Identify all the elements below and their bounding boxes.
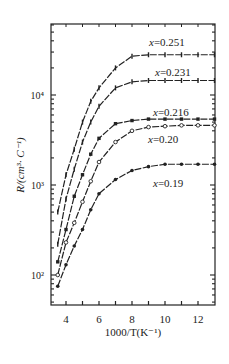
data-point-marker [64, 241, 68, 245]
data-point-marker [147, 165, 151, 169]
data-point-marker [56, 284, 60, 288]
data-point-marker [81, 228, 85, 232]
data-point-marker [64, 263, 68, 267]
y-axis-label: R/(cm³· C⁻¹) [14, 137, 27, 194]
data-point-marker [213, 124, 217, 128]
series-line [58, 80, 215, 244]
data-point-marker [114, 140, 118, 144]
data-point-marker [196, 124, 200, 128]
x-axis-label: 1000/T(K⁻¹) [105, 326, 162, 339]
data-point-marker [213, 117, 216, 120]
data-point-marker [56, 273, 60, 277]
data-point-marker [147, 117, 150, 120]
data-point-marker [114, 178, 118, 182]
data-point-marker [180, 162, 184, 166]
data-point-marker [130, 119, 133, 122]
series-label: x=0.216 [152, 106, 189, 118]
series-line [58, 164, 215, 286]
data-point-marker [73, 195, 76, 198]
data-series [56, 52, 216, 288]
x-tick-label: 8 [129, 313, 135, 325]
data-point-marker [89, 179, 93, 183]
series-label: x=0.251 [148, 36, 185, 48]
data-point-marker [147, 125, 151, 129]
data-point-marker [81, 200, 85, 204]
data-point-marker [97, 192, 101, 196]
x-tick-label: 4 [63, 313, 69, 325]
data-point-marker [64, 228, 67, 231]
data-point-marker [81, 173, 84, 176]
series-line [58, 119, 215, 262]
data-point-marker [163, 162, 167, 166]
data-point-marker [114, 122, 117, 125]
data-point-marker [72, 221, 76, 225]
series-line [58, 55, 215, 212]
x-tick-label: 10 [160, 313, 172, 325]
y-tick-label: 10² [31, 270, 44, 281]
data-point-marker [196, 117, 199, 120]
data-point-marker [130, 129, 134, 133]
data-point-marker [56, 260, 59, 263]
data-point-marker [196, 162, 200, 166]
x-tick-label: 6 [96, 313, 102, 325]
chart-figure: 4681012 10²10³10⁴ x=0.251x=0.231x=0.216x… [0, 0, 229, 364]
series-label: x=0.231 [154, 66, 191, 78]
data-point-marker [89, 152, 92, 155]
data-point-marker [163, 124, 167, 128]
data-point-marker [130, 169, 134, 173]
data-point-marker [97, 160, 101, 164]
x-tick-label: 12 [193, 313, 204, 325]
series-label: x=0.20 [147, 133, 179, 145]
data-point-marker [180, 124, 184, 128]
data-point-marker [213, 162, 217, 166]
y-tick-label: 10³ [31, 180, 44, 191]
series-label: x=0.19 [152, 177, 184, 189]
data-point-marker [89, 208, 93, 212]
chart-svg: 4681012 10²10³10⁴ x=0.251x=0.231x=0.216x… [0, 0, 229, 364]
data-point-marker [97, 137, 100, 140]
y-tick-label: 10⁴ [31, 90, 45, 101]
data-point-marker [72, 244, 76, 248]
